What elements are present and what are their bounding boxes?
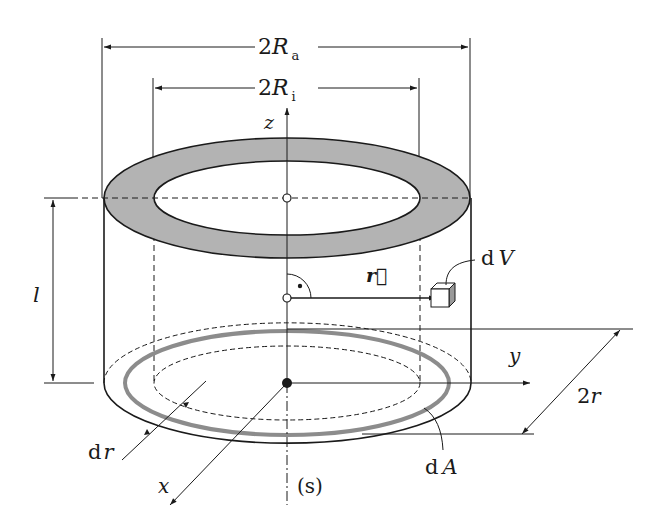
- y-axis-label: y: [509, 346, 520, 366]
- length-label: l: [33, 285, 40, 306]
- outer-diameter-label: 2Ra: [258, 36, 299, 58]
- volume-element-cube: [431, 260, 475, 307]
- z-axis-label: z: [264, 113, 274, 132]
- area-element-label: dA: [425, 457, 458, 478]
- volume-element-label: dV: [481, 248, 514, 269]
- origin-point: [282, 378, 292, 388]
- vector-origin-point: [283, 294, 291, 302]
- x-axis-label: x: [158, 476, 169, 496]
- length-dimension: [44, 198, 94, 383]
- centroid-axis-label: (s): [297, 476, 323, 496]
- x-axis: [170, 383, 287, 505]
- ring-diameter-dimension: [287, 329, 633, 434]
- top-center-point: [283, 194, 291, 202]
- hollow-cylinder-diagram: 2Ra 2Ri z y x l r⃗ dV dA dr 2r (s): [0, 0, 659, 529]
- ring-width-label: dr: [88, 442, 114, 463]
- ring-diameter-label: 2r: [577, 386, 600, 407]
- inner-diameter-label: 2Ri: [258, 77, 296, 99]
- area-element-leader: [424, 408, 443, 450]
- position-vector-label: r⃗: [366, 266, 387, 285]
- ring-width-dimension: [122, 381, 206, 460]
- right-angle-marker: [287, 274, 311, 298]
